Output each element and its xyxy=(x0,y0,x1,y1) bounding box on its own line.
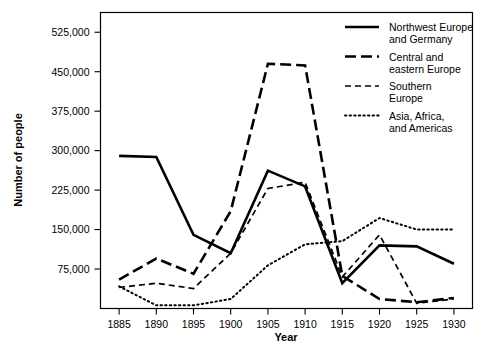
x-tick-label: 1925 xyxy=(405,318,429,330)
y-axis-tick-labels: 75,000150,000225,000300,000375,000450,00… xyxy=(52,26,90,275)
y-tick-label: 75,000 xyxy=(57,263,89,275)
immigration-line-chart: 75,000150,000225,000300,000375,000450,00… xyxy=(0,0,484,348)
legend-label: eastern Europe xyxy=(389,63,461,75)
legend-label: Asia, Africa, xyxy=(389,110,444,122)
x-tick-label: 1900 xyxy=(219,318,243,330)
x-axis-ticks xyxy=(119,309,454,315)
y-tick-label: 525,000 xyxy=(52,26,90,38)
y-tick-label: 300,000 xyxy=(52,144,90,156)
legend-label: Northwest Europe xyxy=(389,21,473,33)
legend-label: Central and xyxy=(389,51,443,63)
legend-label: and Germany xyxy=(389,33,453,45)
x-tick-label: 1885 xyxy=(107,318,131,330)
y-axis-ticks xyxy=(95,32,101,269)
legend-label: and Americas xyxy=(389,122,453,134)
y-tick-label: 450,000 xyxy=(52,66,90,78)
x-tick-label: 1930 xyxy=(442,318,466,330)
legend-label: Southern xyxy=(389,80,432,92)
legend: Northwest Europeand GermanyCentral andea… xyxy=(345,21,473,134)
x-tick-label: 1905 xyxy=(256,318,280,330)
x-axis-tick-labels: 1885189018951900190519101915192019251930 xyxy=(107,318,465,330)
series-line xyxy=(119,218,454,305)
y-tick-label: 150,000 xyxy=(52,223,90,235)
x-tick-label: 1890 xyxy=(145,318,169,330)
chart-svg: 75,000150,000225,000300,000375,000450,00… xyxy=(0,0,484,348)
x-axis-title: Year xyxy=(274,331,298,343)
y-tick-label: 225,000 xyxy=(52,184,90,196)
x-tick-label: 1895 xyxy=(182,318,206,330)
y-tick-label: 375,000 xyxy=(52,105,90,117)
x-tick-label: 1920 xyxy=(368,318,392,330)
series-line xyxy=(119,182,454,303)
x-tick-label: 1910 xyxy=(293,318,317,330)
x-tick-label: 1915 xyxy=(331,318,355,330)
legend-label: Europe xyxy=(389,92,423,104)
y-axis-title: Number of people xyxy=(12,113,24,207)
